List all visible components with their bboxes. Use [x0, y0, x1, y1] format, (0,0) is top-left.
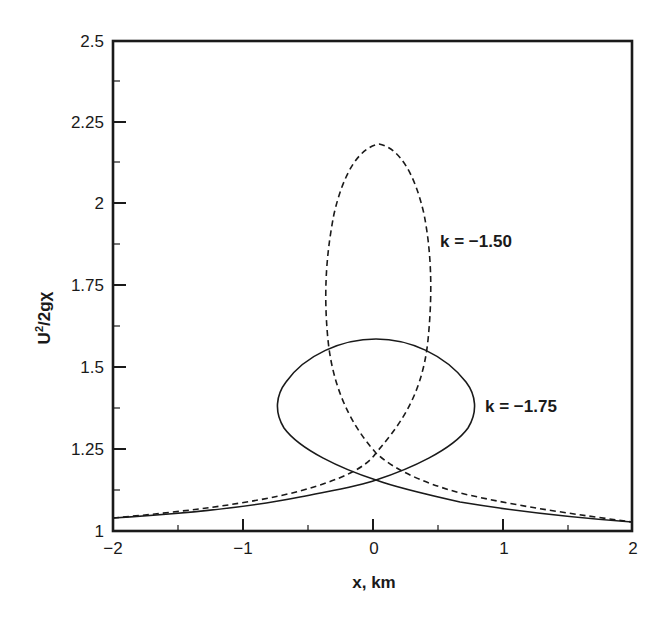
x-tick-labels: −2 −1 0 1 2	[103, 539, 637, 558]
y-tick-label: 2	[95, 194, 104, 213]
y-axis-title-rest: /2gχ	[35, 291, 54, 326]
y-tick-label: 2.25	[71, 113, 104, 132]
x-tick-label: 0	[369, 539, 378, 558]
dashed-curve-k-1.50	[113, 144, 632, 522]
y-tick-label: 1.5	[80, 358, 104, 377]
y-tick-label: 1.25	[71, 440, 104, 459]
series-k-1.75	[113, 339, 632, 522]
y-tick-label: 1	[95, 522, 104, 541]
x-axis-title: x, km	[352, 573, 395, 592]
y-tick-labels: 1 1.25 1.5 1.75 2 2.25 2.5	[71, 32, 104, 541]
y-axis-ticks	[113, 81, 126, 490]
y-tick-label: 1.75	[71, 276, 104, 295]
annotation-k-1.75: k = −1.75	[485, 397, 557, 416]
x-tick-label: 2	[628, 539, 637, 558]
x-tick-label: 1	[499, 539, 508, 558]
x-tick-label: −1	[233, 539, 252, 558]
chart: −2 −1 0 1 2 1 1.25 1.5 1.75 2 2.25 2.5 x…	[0, 0, 664, 622]
solid-curve-k-1.75	[113, 339, 632, 522]
annotation-k-1.50: k = −1.50	[440, 232, 512, 251]
plot-frame	[113, 41, 632, 531]
y-axis-title: U2/2gχ	[33, 291, 54, 344]
y-tick-label: 2.5	[80, 32, 104, 51]
series-k-1.50	[113, 144, 632, 522]
x-axis-ticks	[178, 519, 568, 531]
x-tick-label: −2	[103, 539, 122, 558]
y-axis-title-main: U	[35, 332, 54, 344]
